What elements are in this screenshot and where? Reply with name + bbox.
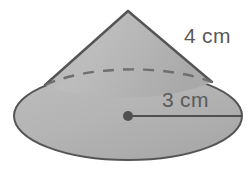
cone-figure: 4 cm 3 cm [0, 0, 252, 172]
radius-label: 3 cm [162, 89, 209, 110]
base-center-dot [123, 111, 133, 121]
slant-height-label: 4 cm [184, 25, 231, 46]
